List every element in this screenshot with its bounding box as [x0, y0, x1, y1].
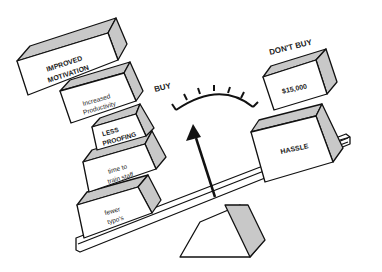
dont-buy-label: DON'T BUY [268, 37, 313, 56]
seesaw-drawing: fewer typo's time to train staff LESS PR… [0, 0, 382, 272]
block-price: $15,000 [263, 49, 337, 110]
gauge [172, 85, 258, 110]
fulcrum [180, 205, 265, 257]
balance-illustration: fewer typo's time to train staff LESS PR… [0, 0, 382, 272]
gauge-needle [186, 124, 215, 197]
block-hassle: HASSLE [251, 104, 343, 182]
buy-label: BUY [153, 81, 172, 94]
dont-buy-stack: HASSLE $15,000 DON'T BUY [251, 37, 343, 182]
buy-stack: fewer typo's time to train staff LESS PR… [17, 18, 173, 238]
